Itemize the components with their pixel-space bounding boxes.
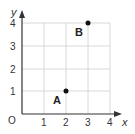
origin-label: O (8, 115, 16, 126)
y-axis-label: y (10, 6, 18, 18)
point-a (64, 89, 69, 94)
y-tick-label: 3 (10, 41, 16, 52)
coordinate-plane: y x O 1 2 3 4 1 2 3 4 A B (0, 0, 135, 134)
x-axis-arrow-icon (114, 111, 122, 117)
x-tick-label: 2 (63, 117, 69, 128)
y-tick-label: 4 (10, 18, 16, 29)
point-b-label: B (75, 26, 83, 38)
x-tick-label: 1 (41, 117, 47, 128)
grid (22, 23, 110, 114)
x-axis-label: x (121, 116, 128, 128)
x-tick-label: 4 (107, 117, 113, 128)
y-axis-arrow-icon (19, 10, 25, 18)
x-tick-labels: 1 2 3 4 (41, 117, 113, 128)
axes (22, 14, 118, 114)
y-tick-label: 2 (10, 64, 16, 75)
y-tick-label: 1 (10, 86, 16, 97)
point-b (86, 21, 91, 26)
x-tick-label: 3 (85, 117, 91, 128)
y-tick-labels: 1 2 3 4 (10, 18, 16, 97)
point-a-label: A (53, 94, 61, 106)
